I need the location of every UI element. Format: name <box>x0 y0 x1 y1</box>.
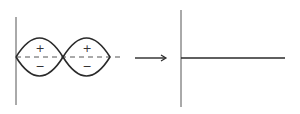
right-arrow-icon <box>135 55 166 61</box>
left-panel: + − + − <box>16 17 120 105</box>
right-panel <box>181 10 285 107</box>
diagram-canvas: + − + − <box>0 0 300 114</box>
lobe-2-plus-sign: + <box>82 42 91 55</box>
lobe-2-minus-sign: − <box>82 60 91 73</box>
lobe-1-minus-sign: − <box>35 60 44 73</box>
lobe-1-plus-sign: + <box>35 42 44 55</box>
